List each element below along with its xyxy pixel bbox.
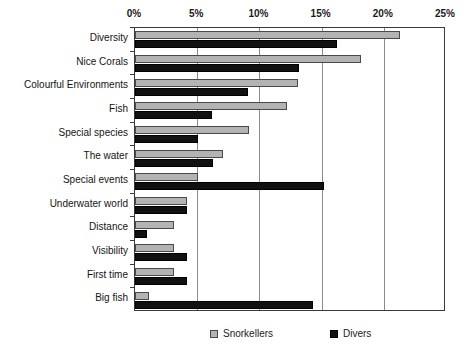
y-category-label: Big fish bbox=[0, 293, 128, 303]
x-tick-label: 5% bbox=[189, 8, 203, 19]
y-axis-tick bbox=[130, 264, 134, 265]
y-category-label: The water bbox=[0, 151, 128, 161]
bar-snorkellers bbox=[135, 221, 174, 229]
bar-divers bbox=[135, 182, 324, 190]
bar-snorkellers bbox=[135, 292, 149, 300]
legend-swatch-divers-icon bbox=[330, 330, 338, 338]
y-axis-tick bbox=[130, 27, 134, 28]
y-category-label: Special events bbox=[0, 175, 128, 185]
bar-divers bbox=[135, 40, 337, 48]
bar-divers bbox=[135, 88, 248, 96]
chart-legend: SnorkellersDivers bbox=[0, 326, 468, 344]
y-category-label: Fish bbox=[0, 104, 128, 114]
y-category-label: Diversity bbox=[0, 33, 128, 43]
bar-snorkellers bbox=[135, 102, 287, 110]
y-axis-tick bbox=[130, 51, 134, 52]
y-category-label: Visibility bbox=[0, 246, 128, 256]
legend-item: Snorkellers bbox=[210, 328, 273, 339]
x-tick-label: 10% bbox=[248, 8, 268, 19]
plot-area bbox=[134, 27, 445, 311]
bar-divers bbox=[135, 111, 212, 119]
x-tick-label: 0% bbox=[127, 8, 141, 19]
x-tick-label: 25% bbox=[435, 8, 455, 19]
bar-divers bbox=[135, 230, 147, 238]
y-category-label: First time bbox=[0, 270, 128, 280]
gridline bbox=[384, 28, 385, 310]
bar-divers bbox=[135, 135, 198, 143]
bar-divers bbox=[135, 301, 313, 309]
bar-chart: 0%5%10%15%20%25% DiversityNice CoralsCol… bbox=[0, 0, 468, 348]
y-category-label: Colourful Environments bbox=[0, 80, 128, 90]
bar-snorkellers bbox=[135, 31, 400, 39]
y-axis-tick bbox=[130, 169, 134, 170]
y-axis-tick bbox=[130, 216, 134, 217]
bar-snorkellers bbox=[135, 173, 198, 181]
y-category-label: Underwater world bbox=[0, 199, 128, 209]
bar-divers bbox=[135, 206, 187, 214]
y-axis-tick bbox=[130, 74, 134, 75]
bar-snorkellers bbox=[135, 126, 249, 134]
bar-divers bbox=[135, 277, 187, 285]
bar-divers bbox=[135, 159, 213, 167]
y-axis-tick bbox=[130, 145, 134, 146]
y-axis-category-labels: DiversityNice CoralsColourful Environmen… bbox=[0, 27, 128, 311]
legend-label: Snorkellers bbox=[223, 328, 273, 339]
gridline bbox=[322, 28, 323, 310]
y-axis-tick bbox=[130, 98, 134, 99]
y-category-label: Nice Corals bbox=[0, 57, 128, 67]
bar-snorkellers bbox=[135, 150, 223, 158]
y-axis-tick bbox=[130, 287, 134, 288]
legend-item: Divers bbox=[330, 328, 371, 339]
y-axis-tick bbox=[130, 193, 134, 194]
bar-snorkellers bbox=[135, 268, 174, 276]
bar-divers bbox=[135, 253, 187, 261]
legend-label: Divers bbox=[343, 328, 371, 339]
y-category-label: Special species bbox=[0, 128, 128, 138]
x-tick-label: 15% bbox=[311, 8, 331, 19]
bar-divers bbox=[135, 64, 299, 72]
bar-snorkellers bbox=[135, 244, 174, 252]
legend-swatch-snorkellers-icon bbox=[210, 330, 218, 338]
y-axis-tick bbox=[130, 240, 134, 241]
y-category-label: Distance bbox=[0, 222, 128, 232]
bar-snorkellers bbox=[135, 197, 187, 205]
bar-snorkellers bbox=[135, 55, 361, 63]
x-tick-label: 20% bbox=[373, 8, 393, 19]
bar-snorkellers bbox=[135, 79, 298, 87]
y-axis-tick bbox=[130, 122, 134, 123]
